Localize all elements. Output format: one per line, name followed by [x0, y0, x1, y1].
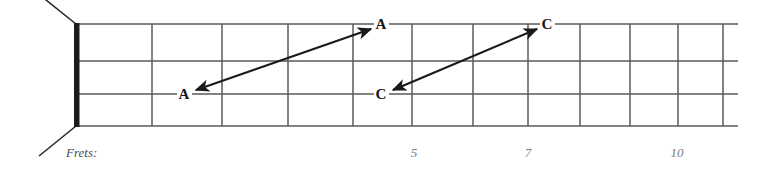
- note-a-high-label: A: [376, 16, 387, 32]
- note-a-low-label: A: [179, 86, 190, 102]
- fretboard-diagram: A A C C Frets: 5 7 10: [0, 0, 773, 172]
- note-c-high-label: C: [542, 16, 553, 32]
- fret-number-7: 7: [525, 145, 532, 160]
- note-c-low-label: C: [376, 86, 387, 102]
- fret-number-10: 10: [671, 145, 685, 160]
- nut-bar: [74, 23, 80, 127]
- fret-number-5: 5: [411, 145, 418, 160]
- frets-caption: Frets:: [65, 145, 97, 160]
